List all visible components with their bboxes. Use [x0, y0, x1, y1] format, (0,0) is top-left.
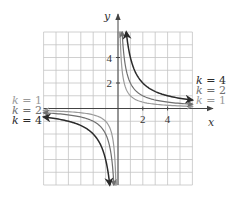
legend-right: k = 4k = 2k = 1: [196, 74, 226, 107]
curve-k4-neg: [44, 117, 110, 185]
curve-k2-pos: [122, 32, 192, 104]
x-tick-label: 2: [140, 113, 146, 125]
y-axis-label: y: [103, 10, 111, 23]
hyperbola-chart: 2424 x y k = 4k = 2k = 1 k = 1k = 2k = 4: [0, 0, 232, 198]
legend-left-entry: k = 4: [12, 114, 42, 127]
x-tick-label: 4: [165, 113, 171, 125]
y-tick-label: 2: [107, 77, 113, 89]
curve-k1-pos: [120, 32, 192, 106]
tick-labels: 2424: [107, 52, 171, 125]
y-tick-label: 4: [107, 52, 113, 64]
curve-k2-neg: [44, 113, 114, 185]
curve-k4-pos: [126, 32, 192, 100]
legend-right-entry: k = 1: [196, 94, 226, 107]
curve-k1-neg: [44, 111, 116, 185]
x-axis-label: x: [208, 116, 215, 129]
legend-left: k = 1k = 2k = 4: [12, 94, 42, 127]
